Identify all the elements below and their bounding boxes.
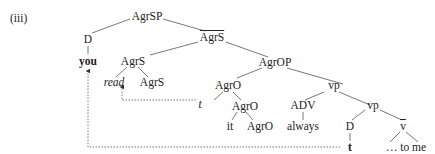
node-trace-t: t (198, 98, 201, 110)
node-v-bar: v (400, 120, 406, 132)
node-always: always (287, 120, 319, 132)
node-d-object: D (346, 120, 354, 132)
node-to-me: … to me (386, 141, 426, 153)
node-agrsp: AgrSP (132, 10, 163, 22)
node-vp-upper: vp (328, 79, 340, 91)
node-vp-lower: vp (367, 99, 379, 111)
tree-edges (0, 0, 435, 154)
node-adv: ADV (291, 99, 316, 111)
node-agro-inner: AgrO (247, 120, 273, 132)
node-it: it (227, 120, 233, 132)
node-agrop: AgrOP (259, 56, 292, 68)
node-agro: AgrO (232, 100, 258, 112)
node-you: you (79, 55, 97, 67)
node-d-subject: D (84, 33, 92, 45)
node-agro-bar: AgrO (215, 79, 241, 91)
node-agrs-bar: AgrS (200, 31, 224, 43)
node-t-bold: t (348, 141, 352, 153)
node-read: read (104, 76, 125, 88)
node-agrs: AgrS (121, 55, 145, 67)
node-agrs-inner: AgrS (140, 76, 164, 88)
